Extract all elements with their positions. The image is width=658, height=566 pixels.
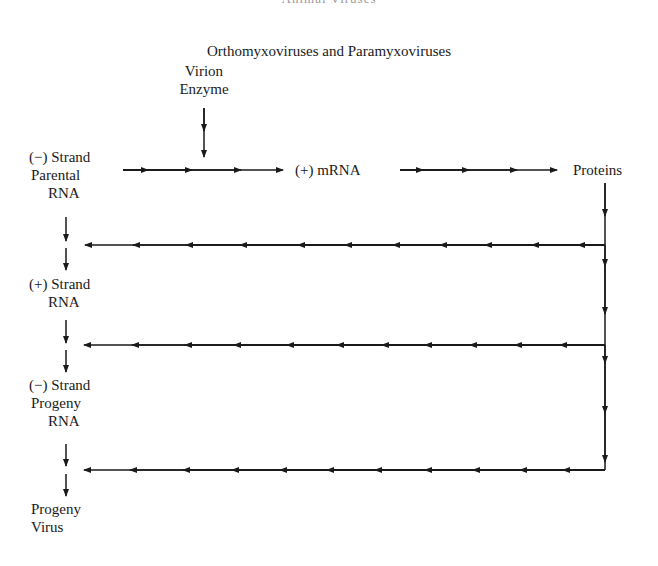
flow-arrows [0,0,658,566]
